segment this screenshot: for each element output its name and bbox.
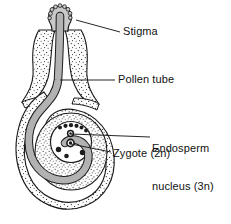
label-endosperm-line2: nucleus (3n)	[152, 180, 214, 193]
nucleus-dot	[80, 126, 84, 130]
label-stigma: Stigma	[123, 25, 158, 38]
nucleus-dot	[56, 147, 61, 152]
label-zygote: Zygote (2n)	[113, 147, 170, 160]
ovule-fertilisation-diagram: Stigma Pollen tube Endosperm nucleus (3n…	[0, 0, 231, 224]
nucleus-dot	[69, 123, 73, 127]
nucleus-dot	[80, 150, 85, 155]
nucleus-dot	[74, 124, 78, 128]
nucleus-dot	[64, 154, 69, 159]
label-endosperm-nucleus: Endosperm nucleus (3n)	[152, 117, 214, 217]
leader-stigma	[76, 20, 120, 32]
label-pollen-tube: Pollen tube	[118, 73, 174, 86]
style-left-lobe	[22, 30, 55, 102]
style-right-lobe	[65, 30, 99, 104]
nucleus-dot	[63, 124, 67, 128]
nucleus-dot	[58, 126, 62, 130]
nucleus-dot	[84, 129, 88, 133]
